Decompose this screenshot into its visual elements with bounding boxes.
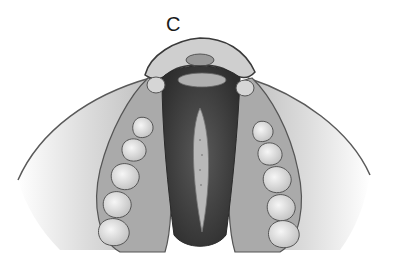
cleft <box>162 66 240 246</box>
illustration-svg <box>0 0 398 272</box>
panel-label: C <box>166 14 180 34</box>
cleft-palate-illustration <box>0 0 398 272</box>
